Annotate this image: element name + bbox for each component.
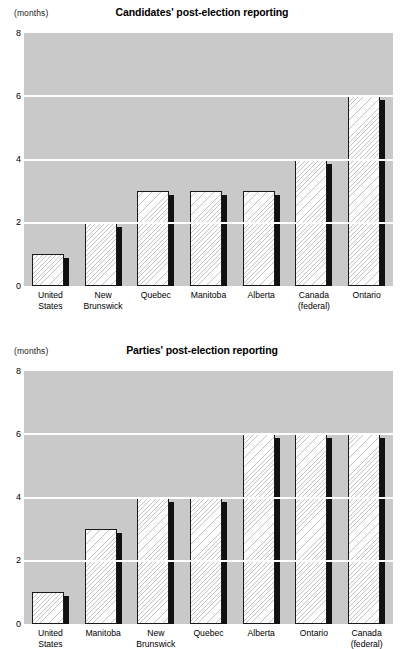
bar-group (32, 592, 69, 624)
x-tick-label: Canada (federal) (288, 290, 341, 311)
bar-shadow (327, 164, 332, 287)
x-tick-label: Manitoba (77, 628, 130, 639)
gridline-6 (24, 95, 393, 97)
bar-shadow (117, 533, 122, 624)
bar-group (32, 254, 69, 286)
chart-candidates: (months) Candidates' post-election repor… (0, 0, 404, 320)
bar-alberta (243, 191, 275, 286)
x-tick-label: Alberta (235, 290, 288, 301)
bar-shadow (222, 502, 227, 625)
bar-group (243, 434, 280, 624)
bar-shadow (64, 596, 69, 624)
bar-shadow (169, 195, 174, 286)
x-tick-label: New Brunswick (129, 628, 182, 649)
bar-united-states (32, 254, 64, 286)
x-tick-label: Manitoba (182, 290, 235, 301)
x-tick-label: United States (24, 290, 77, 311)
bar-shadow (169, 502, 174, 625)
bar-shadow (380, 100, 385, 286)
bar-shadow (380, 438, 385, 624)
bar-group (348, 434, 385, 624)
y-tick-label-8: 8 (1, 367, 21, 376)
y-tick-label-0: 0 (1, 282, 21, 291)
bar-manitoba (85, 529, 117, 624)
bar-ontario (348, 96, 380, 286)
y-tick-label-6: 6 (1, 92, 21, 101)
bar-group (85, 223, 122, 286)
x-tick-label: Alberta (235, 628, 288, 639)
bar-group (85, 529, 122, 624)
y-tick-label-6: 6 (1, 430, 21, 439)
x-tick-label: Canada (federal) (340, 628, 393, 649)
bar-united-states (32, 592, 64, 624)
bar-shadow (64, 258, 69, 286)
x-tick-label: United States (24, 628, 77, 649)
bar-group (190, 191, 227, 286)
bar-group (348, 96, 385, 286)
y-tick-label-8: 8 (1, 29, 21, 38)
y-tick-label-2: 2 (1, 556, 21, 565)
bar-ontario (295, 434, 327, 624)
y-tick-label-4: 4 (1, 493, 21, 502)
chart-title: Parties' post-election reporting (0, 344, 404, 356)
bar-manitoba (190, 191, 222, 286)
bar-group (137, 191, 174, 286)
bar-shadow (222, 195, 227, 286)
bar-group (295, 434, 332, 624)
x-tick-label: Quebec (182, 628, 235, 639)
y-tick-label-0: 0 (1, 620, 21, 629)
bar-shadow (275, 438, 280, 624)
gridline-4 (24, 497, 393, 499)
gridline-2 (24, 222, 393, 224)
chart-title: Candidates' post-election reporting (0, 6, 404, 18)
bar-canada-federal (348, 434, 380, 624)
y-tick-label-4: 4 (1, 155, 21, 164)
x-tick-label: Ontario (340, 290, 393, 301)
gridline-6 (24, 433, 393, 435)
x-tick-label: Quebec (129, 290, 182, 301)
bar-alberta (243, 434, 275, 624)
plot-area (24, 33, 393, 286)
gridline-2 (24, 560, 393, 562)
x-tick-label: New Brunswick (77, 290, 130, 311)
bar-shadow (327, 438, 332, 624)
x-tick-label: Ontario (288, 628, 341, 639)
y-tick-label-2: 2 (1, 218, 21, 227)
bar-quebec (137, 191, 169, 286)
bar-shadow (275, 195, 280, 286)
plot-area (24, 371, 393, 624)
chart-parties: (months) Parties' post-election reportin… (0, 320, 404, 643)
bar-shadow (117, 227, 122, 286)
bar-group (243, 191, 280, 286)
bar-new-brunswick (85, 223, 117, 286)
gridline-4 (24, 159, 393, 161)
